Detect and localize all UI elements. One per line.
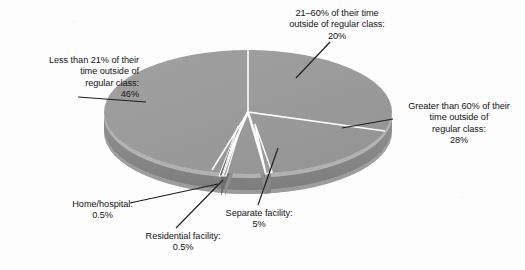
label-line: time outside of (2, 66, 139, 77)
pie-chart-figure: Less than 21% of their time outside of r… (0, 0, 525, 270)
callout-label-separate-facility: Separate facility: 5% (205, 208, 313, 231)
label-line: Less than 21% of their (2, 55, 139, 66)
label-line: Separate facility: (205, 208, 313, 219)
label-value: 0.5% (48, 210, 157, 221)
callout-label-21-60: 21–60% of their time outside of regular … (272, 8, 402, 42)
pie-top-faces (104, 50, 392, 174)
label-value: 46% (2, 89, 139, 100)
label-line: regular class: (2, 78, 139, 89)
label-line: regular class: (396, 124, 522, 135)
label-line: outside of regular class: (272, 19, 402, 30)
label-value: 5% (205, 219, 313, 230)
label-line: Home/hospital: (48, 199, 157, 210)
callout-label-home-hospital: Home/hospital: 0.5% (48, 199, 157, 222)
label-line: 21–60% of their time (272, 8, 402, 19)
label-value: 20% (272, 31, 402, 42)
label-line: time outside of (396, 112, 522, 123)
callout-label-less-than-21: Less than 21% of their time outside of r… (2, 55, 139, 101)
label-line: Greater than 60% of their (396, 101, 522, 112)
label-value: 28% (396, 135, 522, 146)
label-line: Residential facility: (126, 231, 240, 242)
callout-label-greater-than-60: Greater than 60% of their time outside o… (396, 101, 522, 147)
label-value: 0.5% (126, 242, 240, 253)
callout-label-residential-facility: Residential facility: 0.5% (126, 231, 240, 254)
